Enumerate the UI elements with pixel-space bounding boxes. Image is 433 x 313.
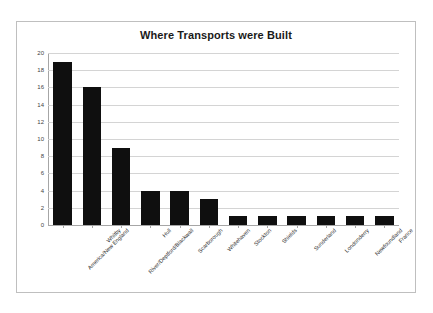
y-axis-tick-label: 12 — [17, 119, 44, 125]
bar — [375, 216, 394, 225]
bar-slot — [194, 53, 223, 225]
y-axis-tick-label: 14 — [17, 102, 44, 108]
bar — [83, 87, 102, 225]
y-axis-tick-label: 16 — [17, 84, 44, 90]
y-axis-tick-label: 10 — [17, 136, 44, 142]
y-axis-tick-label: 8 — [17, 153, 44, 159]
bar-slot — [311, 53, 340, 225]
x-axis-category-label: Shields — [282, 228, 299, 245]
bar-slot — [282, 53, 311, 225]
y-axis-tick-label: 18 — [17, 67, 44, 73]
bar — [287, 216, 306, 225]
chart-container: Where Transports were Built 201816141210… — [16, 21, 416, 293]
bar-slot — [253, 53, 282, 225]
y-axis-tick-label: 6 — [17, 170, 44, 176]
x-axis-category-label: Sunderland — [314, 228, 338, 252]
bar — [200, 199, 219, 225]
x-axis-category-label: Londonderry — [344, 228, 370, 254]
x-axis-category-labels: America/New EnglandWhitbyRiver/Deptford/… — [48, 228, 399, 290]
bar-slot — [341, 53, 370, 225]
bar-slot — [165, 53, 194, 225]
bar-slot — [107, 53, 136, 225]
bar — [346, 216, 365, 225]
x-axis-category-label: Newfoundland — [374, 228, 403, 257]
x-axis-baseline — [48, 225, 399, 226]
bar — [229, 216, 248, 225]
x-axis-category-label: Scarborough — [198, 228, 225, 255]
bar-slot — [48, 53, 77, 225]
bar — [170, 191, 189, 225]
bar-series — [48, 53, 399, 225]
x-axis-category-label: Stockton — [253, 228, 272, 247]
y-axis-tick-label: 4 — [17, 188, 44, 194]
bar-slot — [136, 53, 165, 225]
x-axis-category-label: Hull — [162, 228, 173, 239]
y-axis-tick-label: 20 — [17, 50, 44, 56]
x-axis-category-label: River/Deptford/Blackwall — [148, 228, 195, 275]
bar — [317, 216, 336, 225]
x-axis-category-label: Whitehaven — [226, 228, 251, 253]
y-axis-tick-label: 2 — [17, 205, 44, 211]
bar — [112, 148, 131, 225]
bar-slot — [370, 53, 399, 225]
y-axis-tick-label: 0 — [17, 222, 44, 228]
bar — [141, 191, 160, 225]
bar-slot — [224, 53, 253, 225]
bar — [258, 216, 277, 225]
chart-title: Where Transports were Built — [17, 29, 415, 41]
y-axis-tick-labels: 20181614121086420 — [17, 53, 44, 225]
plot-area — [48, 53, 399, 225]
bar — [53, 62, 72, 225]
bar-slot — [77, 53, 106, 225]
